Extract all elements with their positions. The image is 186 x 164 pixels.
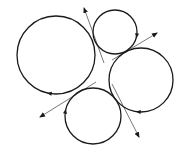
tangent-bottom-left <box>40 82 96 117</box>
top-small-circle <box>93 10 137 54</box>
right-circle <box>109 48 173 112</box>
tangent-circles-diagram <box>0 0 186 164</box>
tangent-top-right <box>112 33 157 60</box>
tangent-lines <box>40 8 157 137</box>
tangent-top-left <box>84 8 104 63</box>
tangent-bottom-right <box>112 84 139 137</box>
right-circle-direction-arrow-icon <box>136 110 141 114</box>
circles <box>17 10 173 144</box>
large-circle <box>17 16 95 94</box>
diagram-canvas <box>0 0 186 164</box>
bottom-circle <box>65 88 121 144</box>
